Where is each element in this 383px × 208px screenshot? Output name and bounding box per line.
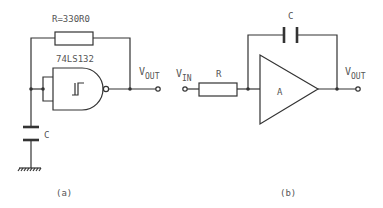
inverter-bubble bbox=[103, 86, 108, 91]
caption-b: (b) bbox=[280, 188, 296, 198]
diagram-a: R=330R0 74LS132 VOUT C (a) bbox=[18, 14, 160, 198]
resistor-label-b: R bbox=[216, 69, 222, 79]
schmitt-trigger-icon bbox=[72, 83, 84, 95]
junction-dot bbox=[41, 87, 45, 91]
output-terminal-a bbox=[156, 87, 160, 91]
feedback-wire-right bbox=[93, 38, 130, 89]
feedback-wire-left-b bbox=[248, 35, 284, 89]
vout-label-a: VOUT bbox=[139, 66, 160, 81]
resistor-a bbox=[55, 32, 93, 45]
op-amp-triangle bbox=[260, 55, 318, 124]
capacitor-label-b: C bbox=[288, 11, 293, 21]
diagram-b: VIN R C A VOUT (b) bbox=[176, 11, 366, 198]
vin-label: VIN bbox=[176, 68, 192, 83]
input-terminal-b bbox=[183, 87, 187, 91]
vout-label-b: VOUT bbox=[345, 66, 366, 81]
junction-dot bbox=[335, 87, 339, 91]
gate-label: 74LS132 bbox=[56, 54, 94, 64]
capacitor-label-a: C bbox=[44, 130, 49, 140]
junction-dot bbox=[128, 87, 132, 91]
resistor-label-a: R=330R0 bbox=[52, 14, 90, 24]
circuit-figure: R=330R0 74LS132 VOUT C (a) VI bbox=[0, 0, 383, 208]
ground-icon bbox=[18, 168, 41, 171]
amplifier-label: A bbox=[277, 87, 283, 97]
resistor-b bbox=[199, 83, 237, 96]
caption-a: (a) bbox=[56, 188, 72, 198]
output-terminal-b bbox=[356, 87, 360, 91]
